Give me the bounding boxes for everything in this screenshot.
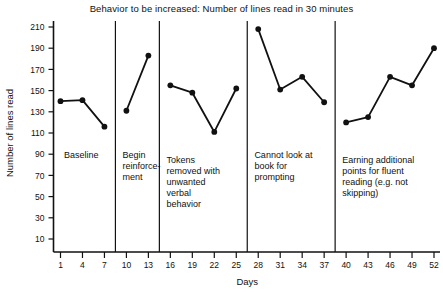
x-tick-label: 25 — [232, 260, 242, 270]
phase-condition-labels: BaselineBeginreinforce-mentTokensremoved… — [64, 150, 414, 209]
data-point — [409, 82, 415, 88]
x-tick-label: 43 — [363, 260, 373, 270]
x-tick-label: 31 — [275, 260, 285, 270]
phase-label-line: book for — [254, 161, 287, 171]
x-axis-group: 147101316192225283134374043464952 — [54, 252, 441, 270]
data-point — [365, 114, 371, 120]
data-point — [321, 99, 327, 105]
data-point — [102, 124, 108, 130]
data-point — [167, 82, 173, 88]
y-tick-label: 190 — [30, 43, 44, 53]
phase-label-line: unwanted — [166, 177, 205, 187]
phase-label-line: skipping) — [342, 188, 378, 198]
y-tick-label: 210 — [30, 22, 44, 32]
phase-label-line: reading (e.g. not — [342, 177, 408, 187]
x-tick-label: 1 — [58, 260, 63, 270]
x-tick-label: 22 — [210, 260, 220, 270]
data-point — [233, 86, 239, 92]
data-point — [255, 26, 261, 32]
data-point — [299, 74, 305, 80]
data-point — [124, 108, 130, 114]
phase-label-group: Earning additionalpoints for fluentreadi… — [342, 155, 414, 198]
y-tick-label: 130 — [30, 107, 44, 117]
y-axis-title: Number of lines read — [4, 89, 15, 177]
phase-label-line: points for fluent — [342, 166, 404, 176]
x-tick-label: 34 — [297, 260, 307, 270]
line-chart-plot: 1030507090110130150170190210 14710131619… — [0, 0, 443, 294]
phase-label-line: verbal — [166, 188, 191, 198]
data-point — [277, 87, 283, 93]
x-tick-labels: 147101316192225283134374043464952 — [58, 260, 439, 270]
data-point — [431, 45, 437, 51]
phase-series-line — [346, 48, 434, 122]
x-tick-marks — [61, 252, 435, 258]
phase-series-line — [126, 56, 148, 111]
data-point — [387, 74, 393, 80]
y-axis-group: 1030507090110130150170190210 — [30, 21, 53, 252]
x-tick-label: 19 — [188, 260, 198, 270]
phase-label-group: Baseline — [64, 150, 99, 160]
y-tick-labels: 1030507090110130150170190210 — [30, 22, 44, 244]
x-tick-label: 7 — [102, 260, 107, 270]
data-point — [58, 98, 64, 104]
data-point — [189, 90, 195, 96]
phase-label-line: removed with — [166, 166, 220, 176]
y-tick-label: 170 — [30, 65, 44, 75]
x-tick-label: 40 — [341, 260, 351, 270]
x-tick-label: 16 — [166, 260, 176, 270]
x-tick-label: 46 — [385, 260, 395, 270]
y-tick-label: 30 — [35, 213, 45, 223]
phase-label-line: Tokens — [166, 155, 195, 165]
phase-label-line: Earning additional — [342, 155, 414, 165]
x-tick-label: 10 — [122, 260, 132, 270]
x-tick-label: 13 — [144, 260, 154, 270]
phase-series-line — [61, 100, 105, 127]
phase-label-line: ment — [123, 172, 144, 182]
phase-label-line: reinforce- — [123, 161, 161, 171]
phase-label-group: Cannot look atbook forprompting — [254, 150, 313, 182]
x-tick-label: 52 — [429, 260, 439, 270]
x-tick-label: 49 — [407, 260, 417, 270]
phase-label-line: prompting — [254, 172, 294, 182]
y-tick-label: 110 — [31, 128, 45, 138]
x-tick-label: 37 — [319, 260, 329, 270]
chart-container: Behavior to be increased: Number of line… — [0, 0, 443, 294]
y-tick-label: 150 — [30, 86, 44, 96]
x-tick-label: 4 — [80, 260, 85, 270]
phase-series-line — [258, 29, 324, 102]
x-tick-label: 28 — [254, 260, 264, 270]
phase-label-group: Beginreinforce-ment — [123, 150, 161, 182]
phase-label-line: Cannot look at — [254, 150, 313, 160]
y-tick-label: 70 — [35, 171, 45, 181]
y-tick-label: 10 — [35, 234, 45, 244]
phase-series-line — [170, 85, 236, 132]
data-point — [211, 129, 217, 135]
phase-label-line: Begin — [123, 150, 146, 160]
data-point — [343, 120, 349, 126]
phase-label-group: Tokensremoved withunwantedverbalbehavior — [166, 155, 220, 209]
phase-label-line: Baseline — [64, 150, 99, 160]
x-axis-title: Days — [236, 276, 258, 287]
phase-label-line: behavior — [166, 199, 201, 209]
data-point — [80, 97, 86, 103]
data-point — [145, 53, 151, 59]
y-tick-label: 50 — [35, 192, 45, 202]
y-tick-label: 90 — [35, 149, 45, 159]
